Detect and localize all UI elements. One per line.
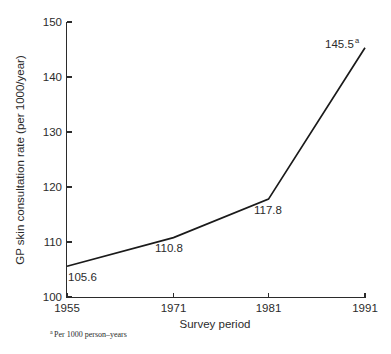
chart-figure: 150 140 130 120 110 100 1955 1971 1981 1… bbox=[0, 0, 391, 354]
y-tick-label-130: 130 bbox=[43, 126, 62, 138]
y-tick-label-120: 120 bbox=[43, 181, 62, 193]
line-chart: 150 140 130 120 110 100 1955 1971 1981 1… bbox=[0, 0, 391, 354]
x-tick-label-1981: 1981 bbox=[256, 302, 282, 314]
x-tick-label-1955: 1955 bbox=[54, 302, 80, 314]
data-label-1981: 117.8 bbox=[254, 204, 282, 216]
y-tick-label-110: 110 bbox=[44, 236, 62, 248]
y-tick-label-140: 140 bbox=[43, 71, 62, 83]
data-label-1971: 110.8 bbox=[155, 242, 183, 254]
footnote-marker: a bbox=[50, 329, 53, 335]
x-tick-label-1991: 1991 bbox=[352, 302, 378, 314]
data-label-1955: 105.6 bbox=[68, 271, 97, 283]
footnote-label: Per 1000 person–years bbox=[54, 330, 127, 339]
y-axis-title: GP skin consultation rate (per 1000/year… bbox=[14, 55, 26, 265]
x-tick-label-1971: 1971 bbox=[161, 302, 187, 314]
y-tick-label-150: 150 bbox=[43, 16, 62, 28]
x-axis-title: Survey period bbox=[180, 318, 251, 330]
footnote: a Per 1000 person–years bbox=[50, 329, 127, 339]
data-label-1991: 145.5 bbox=[325, 38, 354, 50]
